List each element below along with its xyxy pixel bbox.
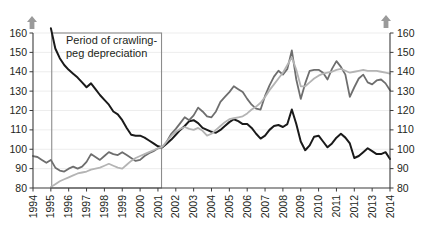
appreciation-right: [381, 15, 391, 28]
x-tick-label: 2007: [259, 195, 271, 219]
x-tick-label: 2013: [366, 195, 378, 219]
y-tick-label: 80: [15, 182, 27, 194]
x-tick-label: 1994: [27, 195, 39, 219]
x-tick-label: 1996: [62, 195, 74, 219]
y-tick-label: 140: [9, 65, 27, 77]
y2-tick-label: 90: [397, 162, 409, 174]
x-tick-label: 2008: [277, 195, 289, 219]
series-light-gray: [51, 57, 390, 187]
arrow-up-icon: [27, 16, 37, 29]
y2-tick-label: 130: [397, 85, 415, 97]
x-tick-label: 1998: [98, 195, 110, 219]
y2-tick-label: 80: [397, 182, 409, 194]
line-chart: 8090100110120130140150160 80901001101201…: [0, 0, 423, 234]
y-axis-labels: 8090100110120130140150160: [9, 27, 27, 194]
y-tick-label: 120: [9, 104, 27, 116]
y-tick-label: 150: [9, 46, 27, 58]
y2-tick-label: 100: [397, 143, 415, 155]
x-tick-label: 1995: [44, 195, 56, 219]
y-tick-label: 130: [9, 85, 27, 97]
x-tick-label: 2002: [169, 195, 181, 219]
x-tick-label: 2011: [330, 195, 342, 218]
x-tick-label: 2014: [384, 195, 396, 219]
x-tick-label: 2009: [294, 195, 306, 219]
y-tick-label: 110: [10, 123, 27, 135]
y2-tick-label: 140: [397, 65, 415, 77]
appreciation-left: [27, 16, 37, 29]
y2-tick-label: 150: [397, 46, 415, 58]
series-dark-gray: [33, 50, 390, 171]
y-tick-label: 160: [9, 27, 27, 39]
x-tick-label: 2004: [205, 195, 217, 219]
x-tick-label: 2006: [241, 195, 253, 219]
y-tick-label: 90: [15, 162, 27, 174]
y2-axis-labels: 8090100110120130140150160: [397, 27, 415, 194]
x-tick-label: 2012: [348, 195, 360, 219]
x-tick-label: 1997: [80, 195, 92, 219]
x-tick-label: 1999: [116, 195, 128, 219]
x-tick-label: 2000: [134, 195, 146, 219]
annotation-line-1: Period of crawling-: [66, 34, 157, 46]
x-tick-label: 2003: [187, 195, 199, 219]
chart-container: 8090100110120130140150160 80901001101201…: [0, 0, 423, 234]
arrow-up-icon: [381, 15, 391, 28]
x-axis-labels: 1994199519961997199819992000200120022003…: [27, 195, 396, 219]
x-tick-label: 2010: [312, 195, 324, 219]
y2-tick-label: 120: [397, 104, 415, 116]
annotation-line-2: peg depreciation: [66, 47, 147, 59]
y-tick-label: 100: [9, 143, 27, 155]
y2-tick-label: 160: [397, 27, 415, 39]
crawling-peg-annotation-text: Period of crawling- peg depreciation: [66, 34, 157, 59]
x-tick-label: 2005: [223, 195, 235, 219]
figure-caption-clipped: [0, 225, 423, 234]
x-tick-label: 2001: [152, 195, 164, 219]
y2-tick-label: 110: [397, 123, 414, 135]
